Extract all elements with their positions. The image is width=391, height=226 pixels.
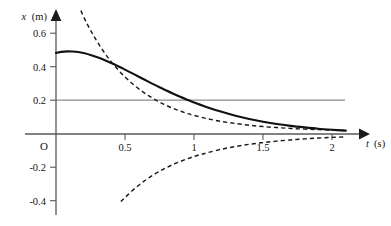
x-tick-label-0p5: 0.5 (118, 142, 131, 153)
y-axis-title-unit: (m) (32, 11, 48, 23)
x-axis-title-variable: t (366, 138, 370, 149)
chart-figure: 0.6 0.4 0.2 -0.2 -0.4 0.5 1 1.5 2 O x (m… (0, 0, 391, 226)
x-axis-title: t (s) (366, 138, 386, 150)
x-tick-label-1p5: 1.5 (256, 142, 269, 153)
x-axis-title-unit: (s) (374, 138, 386, 150)
curve-dashed-lower (121, 137, 346, 202)
displacement-time-plot: 0.6 0.4 0.2 -0.2 -0.4 0.5 1 1.5 2 O x (m… (0, 0, 391, 226)
y-axis-arrowhead (51, 9, 62, 21)
curve-solid-response (56, 51, 346, 130)
y-tick-label-neg0p4: -0.4 (29, 196, 46, 207)
x-tick-label-2: 2 (329, 142, 334, 153)
y-axis-title: x (m) (21, 11, 48, 23)
curve-dashed-upper (81, 11, 346, 131)
y-tick-label-0p4: 0.4 (33, 62, 47, 73)
x-tick-label-1: 1 (191, 142, 196, 153)
y-tick-label-neg0p2: -0.2 (29, 162, 46, 173)
origin-label: O (40, 140, 48, 152)
y-tick-label-0p6: 0.6 (33, 28, 46, 39)
y-tick-label-0p2: 0.2 (33, 95, 46, 106)
y-axis-title-variable: x (21, 11, 27, 22)
